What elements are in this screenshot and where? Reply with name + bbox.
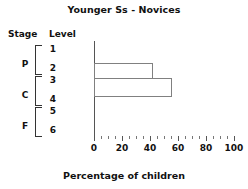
level-number-5: 5 bbox=[46, 107, 60, 116]
minor-tick bbox=[115, 136, 116, 139]
x-tick-label-20: 20 bbox=[109, 143, 135, 153]
minor-tick bbox=[213, 136, 214, 139]
major-tick-20 bbox=[122, 136, 123, 141]
level-column-header: Level bbox=[49, 29, 76, 39]
stage-bracket-p bbox=[35, 45, 42, 75]
minor-tick bbox=[185, 136, 186, 139]
x-tick-label-100: 100 bbox=[221, 143, 247, 153]
chart-title: Younger Ss - Novices bbox=[0, 4, 248, 15]
minor-tick bbox=[157, 136, 158, 139]
x-tick-label-40: 40 bbox=[137, 143, 163, 153]
stage-letter-f: F bbox=[19, 121, 31, 131]
minor-tick bbox=[164, 136, 165, 139]
minor-tick bbox=[129, 136, 130, 139]
chart-figure: Younger Ss - Novices Stage Level P C F 1… bbox=[0, 0, 248, 189]
level-number-2: 2 bbox=[46, 64, 60, 73]
minor-tick bbox=[227, 136, 228, 139]
minor-tick bbox=[199, 136, 200, 139]
bar-1 bbox=[94, 63, 153, 79]
major-tick-40 bbox=[150, 136, 151, 141]
major-tick-0 bbox=[94, 136, 95, 141]
x-tick-label-60: 60 bbox=[165, 143, 191, 153]
stage-column-header: Stage bbox=[8, 29, 37, 39]
x-tick-label-80: 80 bbox=[193, 143, 219, 153]
minor-tick bbox=[220, 136, 221, 139]
major-tick-60 bbox=[178, 136, 179, 141]
x-tick-label-0: 0 bbox=[81, 143, 107, 153]
level-number-3: 3 bbox=[46, 76, 60, 85]
major-tick-100 bbox=[234, 136, 235, 141]
stage-bracket-f bbox=[35, 107, 42, 137]
level-number-6: 6 bbox=[46, 126, 60, 135]
minor-tick bbox=[108, 136, 109, 139]
bar-2 bbox=[94, 78, 172, 97]
x-axis-label: Percentage of children bbox=[0, 170, 248, 181]
minor-tick bbox=[192, 136, 193, 139]
minor-tick bbox=[101, 136, 102, 139]
minor-tick bbox=[143, 136, 144, 139]
minor-tick bbox=[171, 136, 172, 139]
level-number-1: 1 bbox=[46, 45, 60, 54]
minor-tick bbox=[136, 136, 137, 139]
level-number-4: 4 bbox=[46, 95, 60, 104]
stage-letter-p: P bbox=[19, 59, 31, 69]
plot-area: 020406080100 bbox=[94, 41, 234, 136]
stage-bracket-c bbox=[35, 76, 42, 106]
stage-letter-c: C bbox=[19, 90, 31, 100]
major-tick-80 bbox=[206, 136, 207, 141]
